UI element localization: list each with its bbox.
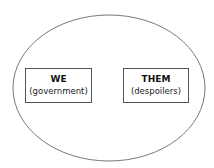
we-title: WE: [26, 74, 91, 85]
them-title: THEM: [124, 74, 188, 85]
them-subtitle: (despoilers): [124, 85, 188, 97]
them-box: THEM (despoilers): [123, 68, 189, 103]
we-subtitle: (government): [26, 85, 91, 97]
we-box: WE (government): [25, 68, 92, 103]
